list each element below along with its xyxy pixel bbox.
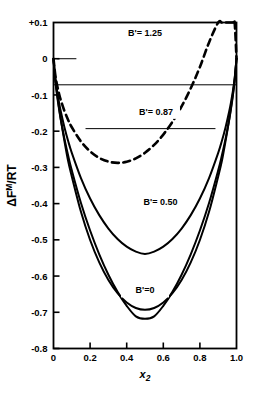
y-tick-label: 0 xyxy=(42,53,47,64)
x-tick-label: 0 xyxy=(51,352,56,363)
y-tick-label: -0.7 xyxy=(31,307,47,318)
curve-label-text: B'=0 xyxy=(136,285,155,295)
y-tick-label: +0.1 xyxy=(29,17,48,28)
y-tick-label: -0.1 xyxy=(31,90,48,101)
y-tick-label: -0.2 xyxy=(31,126,47,137)
y-label-f: F xyxy=(5,191,19,198)
y-tick-label: -0.8 xyxy=(31,343,47,354)
y-tick-label: -0.6 xyxy=(31,271,47,282)
x-tick-label: 0.2 xyxy=(83,352,96,363)
y-tick-label: -0.5 xyxy=(31,234,48,245)
curve-label-text: B'= 0.87 xyxy=(139,107,173,117)
x-axis-label-subscript: 2 xyxy=(145,373,151,383)
figure-container: +0.10-0.1-0.2-0.3-0.4-0.5-0.6-0.7-0.800.… xyxy=(0,0,262,395)
x-tick-label: 0.4 xyxy=(120,352,134,363)
free-energy-of-mixing-chart: +0.10-0.1-0.2-0.3-0.4-0.5-0.6-0.7-0.800.… xyxy=(0,0,262,395)
curve-label-text: B'= 1.25 xyxy=(128,28,162,38)
x-tick-label: 0.6 xyxy=(157,352,170,363)
curve-label-1p25: B'= 1.25 xyxy=(121,28,169,40)
curve-label-text: B'= 0.50 xyxy=(144,197,178,207)
x-tick-label: 0.8 xyxy=(193,352,206,363)
y-label-superscript: M xyxy=(4,184,14,191)
curve-label-0p5: B'= 0.50 xyxy=(137,197,185,209)
y-label-rest: /RT xyxy=(5,164,19,184)
curve-label-0p87: B'= 0.87 xyxy=(132,107,180,119)
curve-label-0: B'=0 xyxy=(121,285,169,297)
y-tick-label: -0.4 xyxy=(31,198,48,209)
x-tick-label: 1.0 xyxy=(230,352,243,363)
y-tick-label: -0.3 xyxy=(31,162,47,173)
